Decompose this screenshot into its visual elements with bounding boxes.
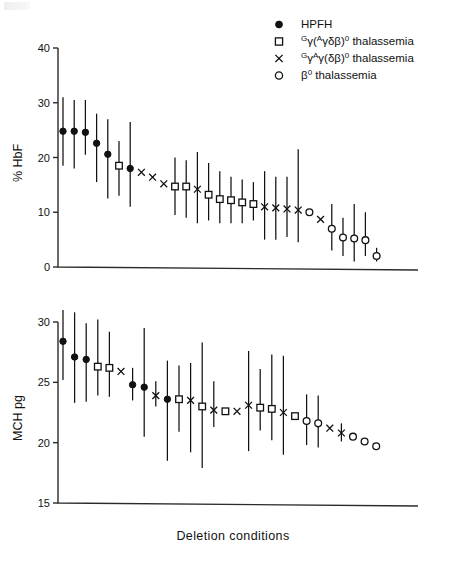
marker-open-square-icon bbox=[228, 197, 235, 204]
marker-open-circle-icon bbox=[350, 433, 357, 440]
bot-ytick-label: 30 bbox=[38, 316, 50, 328]
top-ytick-label: 40 bbox=[38, 42, 50, 54]
legend-item: β0 thalassemia bbox=[275, 68, 377, 82]
marker-open-square-icon bbox=[176, 396, 183, 403]
bot-datapoint bbox=[71, 312, 77, 403]
top-datapoint bbox=[194, 152, 201, 223]
marker-cross-x-icon bbox=[326, 425, 333, 432]
top-ytick-label: 10 bbox=[38, 206, 50, 218]
legend-item-label: HPFH bbox=[301, 18, 332, 30]
marker-open-circle-icon bbox=[306, 209, 313, 216]
top-datapoint bbox=[138, 169, 145, 176]
bot-y-axis-title: MCH pg bbox=[11, 395, 25, 441]
bot-datapoint bbox=[118, 368, 125, 375]
bot-datapoint bbox=[222, 408, 229, 415]
marker-cross-x-icon bbox=[234, 408, 241, 415]
top-datapoint bbox=[351, 204, 358, 261]
marker-open-circle-icon bbox=[361, 438, 368, 445]
marker-filled-circle-icon bbox=[71, 354, 77, 360]
marker-filled-circle-icon bbox=[127, 165, 133, 171]
scan-artifact bbox=[4, 2, 30, 10]
marker-open-circle-icon bbox=[373, 253, 380, 260]
marker-filled-circle-icon bbox=[71, 128, 77, 134]
top-datapoint bbox=[340, 218, 347, 256]
legend-item: Gγ(Aγδβ)0 thalassemia bbox=[275, 34, 414, 48]
bot-datapoint bbox=[141, 328, 147, 437]
top-datapoint bbox=[272, 177, 279, 240]
legend-item-label: Gγ(Aγδβ)0 thalassemia bbox=[301, 34, 414, 48]
marker-open-circle-icon bbox=[362, 237, 369, 244]
marker-open-square-icon bbox=[239, 199, 246, 206]
marker-open-square-icon bbox=[183, 183, 190, 190]
bot-ytick-label: 20 bbox=[38, 437, 50, 449]
top-datapoint bbox=[239, 179, 246, 223]
bot-datapoint bbox=[292, 413, 299, 420]
top-datapoint bbox=[160, 180, 167, 187]
top-y-axis-title: % HbF bbox=[11, 144, 25, 183]
top-datapoint bbox=[217, 171, 224, 223]
top-datapoint bbox=[71, 100, 77, 168]
legend-marker-cross-x-icon bbox=[275, 55, 282, 62]
top-datapoint bbox=[284, 177, 291, 237]
bot-datapoint bbox=[129, 368, 135, 401]
legend-marker-open-square-icon bbox=[275, 38, 282, 45]
top-datapoint bbox=[317, 216, 324, 223]
legend-marker-filled-circle-icon bbox=[276, 21, 283, 28]
top-datapoint bbox=[105, 119, 111, 198]
marker-open-square-icon bbox=[205, 191, 212, 198]
figure-root: 010203040% HbF15202530MCH pgDeletion con… bbox=[0, 0, 466, 561]
bot-ytick-label: 25 bbox=[38, 376, 50, 388]
top-datapoint bbox=[172, 158, 179, 215]
top-datapoint bbox=[373, 248, 380, 262]
bot-datapoint bbox=[245, 351, 252, 451]
bot-datapoint bbox=[350, 433, 357, 440]
marker-open-circle-icon bbox=[303, 418, 310, 425]
top-datapoint bbox=[127, 122, 133, 207]
bot-panel: 15202530MCH pg bbox=[11, 310, 418, 509]
marker-open-square-icon bbox=[116, 162, 123, 169]
top-datapoint bbox=[250, 182, 257, 220]
marker-filled-circle-icon bbox=[82, 129, 88, 135]
bot-datapoint bbox=[106, 332, 113, 397]
top-datapoint bbox=[149, 174, 156, 181]
two-panel-scatter-figure: 010203040% HbF15202530MCH pgDeletion con… bbox=[0, 0, 466, 561]
bot-datapoint bbox=[257, 369, 264, 431]
marker-open-circle-icon bbox=[351, 235, 358, 242]
marker-filled-circle-icon bbox=[129, 382, 135, 388]
marker-cross-x-icon bbox=[160, 180, 167, 187]
legend-marker-open-circle-icon bbox=[275, 72, 282, 79]
top-datapoint bbox=[183, 160, 190, 217]
x-axis-label: Deletion conditions bbox=[176, 529, 289, 543]
bot-datapoint bbox=[152, 381, 159, 406]
marker-open-circle-icon bbox=[373, 443, 380, 450]
top-ytick-label: 20 bbox=[38, 152, 50, 164]
legend-item: GγAγ(δβ)0 thalassemia bbox=[275, 51, 414, 65]
bot-datapoint bbox=[210, 381, 217, 427]
marker-filled-circle-icon bbox=[164, 396, 170, 402]
marker-open-circle-icon bbox=[328, 225, 335, 232]
bot-axis-lines bbox=[58, 322, 418, 506]
top-datapoint bbox=[60, 97, 66, 165]
marker-cross-x-icon bbox=[138, 169, 145, 176]
bot-datapoint bbox=[95, 320, 102, 396]
top-datapoint bbox=[116, 141, 123, 196]
bot-datapoint bbox=[176, 365, 183, 431]
marker-open-square-icon bbox=[199, 403, 206, 410]
marker-filled-circle-icon bbox=[105, 151, 111, 157]
top-datapoint bbox=[93, 114, 99, 182]
bot-datapoint bbox=[199, 343, 206, 468]
bot-datapoint bbox=[315, 396, 322, 448]
top-datapoint bbox=[362, 212, 369, 256]
top-datapoint bbox=[261, 171, 268, 239]
bot-datapoint bbox=[164, 361, 170, 461]
marker-cross-x-icon bbox=[118, 368, 125, 375]
marker-filled-circle-icon bbox=[83, 356, 89, 362]
marker-open-square-icon bbox=[257, 404, 264, 411]
marker-open-square-icon bbox=[217, 196, 224, 203]
marker-open-circle-icon bbox=[340, 234, 347, 241]
marker-open-circle-icon bbox=[315, 420, 322, 427]
legend-item-label: β0 thalassemia bbox=[301, 68, 377, 82]
marker-filled-circle-icon bbox=[60, 338, 66, 344]
bot-datapoint bbox=[83, 323, 89, 401]
top-datapoint bbox=[295, 149, 302, 242]
